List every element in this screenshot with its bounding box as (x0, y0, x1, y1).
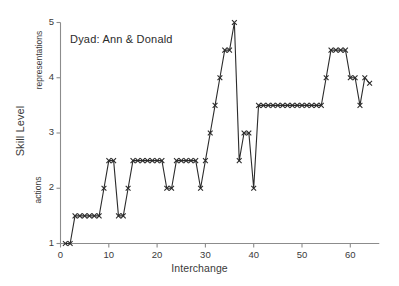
data-point-marker (367, 81, 372, 86)
chart-axes (57, 23, 380, 248)
chart-plot-area (0, 0, 399, 286)
x-axis-title: Interchange (0, 262, 399, 274)
chart-data-series (63, 20, 372, 246)
chart-container: Skill Level representations actions Dyad… (0, 0, 399, 286)
series-line (65, 23, 369, 244)
